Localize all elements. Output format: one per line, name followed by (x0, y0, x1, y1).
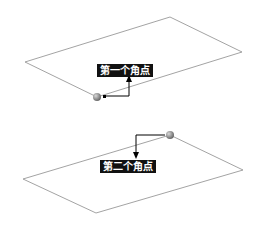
first-corner-leader (103, 75, 132, 98)
first-corner-sphere (93, 93, 101, 101)
second-corner-leader (133, 135, 165, 159)
second-corner-label: 第二个角点 (100, 160, 156, 173)
diagram-canvas (0, 0, 260, 227)
top-plane (25, 17, 242, 97)
second-corner-sphere (166, 131, 174, 139)
first-corner-label: 第一个角点 (97, 64, 153, 77)
bottom-plane (23, 135, 243, 213)
